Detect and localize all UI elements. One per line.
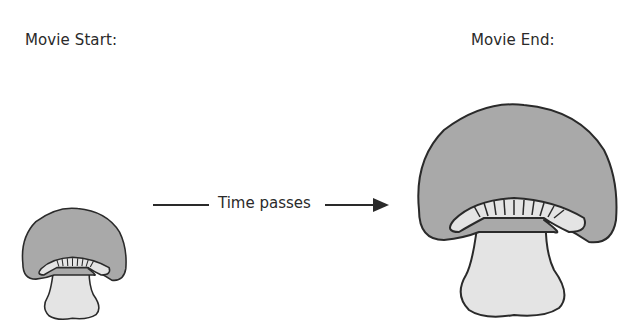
arrow-line-left (153, 204, 209, 206)
right-arrow-icon (373, 198, 389, 212)
arrow-line-right (325, 204, 375, 206)
movie-start-label: Movie Start: (25, 31, 117, 49)
small-mushroom-icon (15, 185, 130, 321)
transition-arrow: Time passes (150, 190, 395, 220)
large-mushroom-icon (404, 60, 624, 320)
time-passes-label: Time passes (218, 194, 311, 212)
movie-end-label: Movie End: (471, 31, 555, 49)
